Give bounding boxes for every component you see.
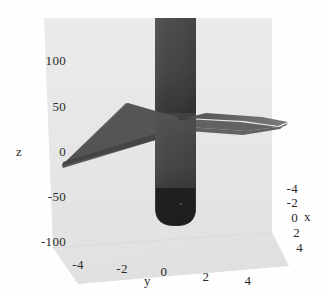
x-tick-0: 0 <box>272 210 298 226</box>
x-tick-neg2: -2 <box>272 195 298 211</box>
y-axis-label: y <box>144 273 151 289</box>
y-tick-0: 0 <box>152 264 176 280</box>
x-axis-label: x <box>304 209 311 225</box>
y-tick-2: 2 <box>194 269 218 285</box>
y-tick-neg4: -4 <box>66 257 90 273</box>
z-tick-neg100: -100 <box>8 234 66 250</box>
z-tick-50: 50 <box>8 99 66 115</box>
z-axis-label: z <box>16 144 22 160</box>
z-tick-neg50: -50 <box>8 189 66 205</box>
x-tick-2: 2 <box>274 225 300 241</box>
y-tick-neg2: -2 <box>110 261 134 277</box>
z-tick-100: 100 <box>8 53 66 69</box>
x-tick-4: 4 <box>277 240 303 256</box>
y-tick-4: 4 <box>236 273 260 289</box>
